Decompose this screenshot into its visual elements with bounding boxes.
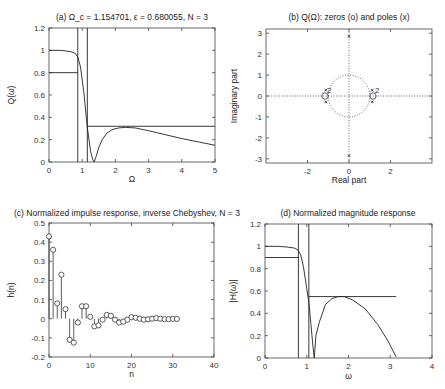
chart-title: (b) Q(Ω): zeros (o) and poles (x) [288,12,409,22]
y-tick-label: -2 [255,134,263,143]
x-tick-label: 0 [47,361,52,370]
stem-marker [75,320,80,325]
x-tick-label: -2 [304,167,312,176]
response-curve [265,246,396,358]
pole-marker [371,101,374,104]
stem-marker [174,316,179,321]
y-axis-label: Imaginary part [229,68,239,123]
stem-marker [88,314,93,319]
stem-marker [59,272,64,277]
pole-marker [324,101,327,104]
y-tick-label: 0.8 [250,265,262,274]
stem-marker [55,301,60,306]
y-tick-label: 0 [41,315,46,324]
x-tick-label: 40 [210,361,219,370]
y-tick-label: 1 [257,242,262,251]
multiplicity-label: 2 [327,86,332,95]
panel-d: (d) Normalized magnitude response0123400… [228,208,435,381]
x-tick-label: 1 [80,166,85,175]
pole-marker [371,89,374,92]
x-tick-label: 3 [388,362,393,371]
panel-a: (a) Ω_c = 1.154701, ε = 0.680055, N = 30… [6,12,218,184]
y-tick-label: 3 [258,29,263,38]
chart-title: (d) Normalized magnitude response [280,208,415,218]
stem-marker [96,323,101,328]
y-tick-label: 0.6 [34,91,46,100]
y-tick-label: -3 [255,155,263,164]
y-tick-label: 0.1 [34,296,46,305]
y-axis-label: h(n) [6,282,16,297]
stem-marker [108,313,113,318]
x-tick-label: 2 [388,167,393,176]
y-tick-label: 1 [41,46,46,55]
y-tick-label: 0 [258,92,263,101]
y-tick-label: 0 [257,354,262,363]
stem-marker [71,340,76,345]
y-tick-label: 0.8 [34,69,46,78]
x-tick-label: 5 [213,166,218,175]
x-tick-label: 2 [113,166,118,175]
y-tick-label: -0.1 [31,334,45,343]
y-tick-label: 0.4 [250,309,262,318]
x-tick-label: 0 [263,362,268,371]
x-tick-label: 2 [346,362,351,371]
x-tick-label: 1 [305,362,310,371]
y-tick-label: 1 [258,71,263,80]
multiplicity-label: 2 [375,86,380,95]
x-tick-label: 4 [180,166,185,175]
x-axis-label: ω [345,371,352,381]
chart-title: (c) Normalized impulse response, inverse… [14,208,240,218]
axes-frame [265,224,432,358]
y-tick-label: 2 [258,50,263,59]
stem-marker [46,234,51,239]
y-tick-label: 0.2 [250,332,262,341]
panel-b: (b) Q(Ω): zeros (o) and poles (x)-202-3-… [229,12,432,185]
x-axis-label: Ω [129,174,135,184]
response-curve [49,50,215,162]
y-tick-label: -1 [255,113,263,122]
stem-marker [63,307,68,312]
stem-marker [51,247,56,252]
y-tick-label: 0 [41,158,46,167]
x-axis-label: Real part [332,175,367,185]
y-tick-label: 0.5 [34,219,46,228]
y-axis-label: Q(ω) [6,85,16,104]
x-tick-label: 10 [86,361,95,370]
x-tick-label: 4 [430,362,435,371]
y-axis-label: |H(ω)| [228,280,238,303]
y-tick-label: 0.4 [34,113,46,122]
x-tick-label: 0 [47,166,52,175]
y-tick-label: 1.2 [250,220,262,229]
figure-canvas: (a) Ω_c = 1.154701, ε = 0.680055, N = 30… [0,0,445,389]
y-tick-label: 1.2 [34,24,46,33]
stem-marker [100,317,105,322]
x-axis-label: n [129,369,134,379]
axes-frame [49,28,215,162]
chart-title: (a) Ω_c = 1.154701, ε = 0.680055, N = 3 [56,12,208,22]
y-tick-label: 0.2 [34,276,46,285]
x-tick-label: 30 [168,361,177,370]
y-tick-label: 0.2 [34,136,46,145]
x-tick-label: 3 [146,166,151,175]
y-tick-label: 0.4 [34,238,46,247]
panel-c: (c) Normalized impulse response, inverse… [6,208,240,379]
y-tick-label: 0.6 [250,287,262,296]
y-tick-label: 0.3 [34,257,46,266]
y-tick-label: -0.2 [31,353,45,362]
stem-marker [84,304,89,309]
